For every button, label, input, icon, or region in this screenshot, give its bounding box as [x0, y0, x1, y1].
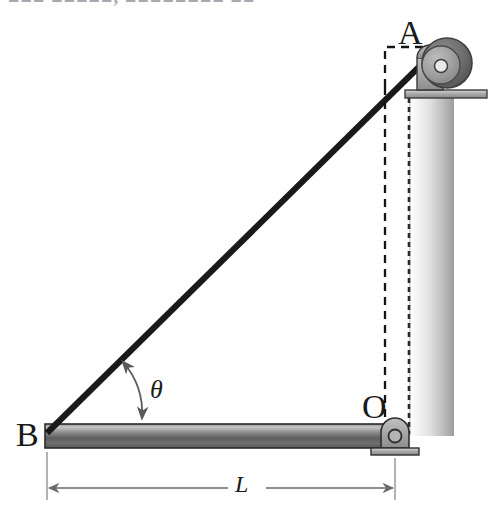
figure-canvas — [0, 0, 493, 525]
dimension-l — [47, 452, 395, 500]
wall-top-plate — [405, 90, 487, 98]
vertical-wall — [409, 96, 454, 436]
horizontal-bar-ob — [45, 424, 397, 448]
point-label-a: A — [398, 16, 423, 50]
mechanics-figure: ■■■ ■■■■■, ■■■■■■■■ ■■ — [0, 0, 493, 525]
cable-ba — [47, 59, 427, 433]
angle-label-theta: θ — [150, 377, 163, 403]
angle-theta — [123, 362, 142, 418]
dimension-label-l: L — [235, 472, 248, 496]
pulley-at-a — [417, 38, 472, 90]
point-label-b: B — [16, 418, 39, 452]
point-label-o: O — [362, 390, 387, 424]
